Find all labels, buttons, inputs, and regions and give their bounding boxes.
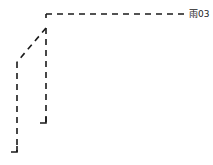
pipe-diagram-canvas: 雨03 xyxy=(0,0,213,165)
rain-pipe-network xyxy=(11,14,186,152)
pipe-label: 雨03 xyxy=(189,9,209,19)
pipe-diagonal xyxy=(17,28,46,62)
pipe-inner-hook xyxy=(40,117,46,123)
pipe-outer-hook xyxy=(11,146,17,152)
